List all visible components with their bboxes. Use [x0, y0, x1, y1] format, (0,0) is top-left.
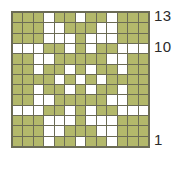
- grid-cell: [139, 54, 148, 63]
- grid-cell: [23, 65, 32, 74]
- grid-cell: [76, 13, 85, 22]
- grid-cell: [97, 34, 106, 43]
- grid-cell: [97, 137, 106, 146]
- grid-cell: [55, 23, 64, 32]
- grid-cell: [139, 85, 148, 94]
- grid-cell: [86, 85, 95, 94]
- grid-cell: [86, 65, 95, 74]
- grid-cell: [13, 85, 22, 94]
- grid-cell: [97, 44, 106, 53]
- grid-cell: [23, 116, 32, 125]
- grid-cell: [128, 54, 137, 63]
- grid-cell: [86, 95, 95, 104]
- grid-cell: [34, 137, 43, 146]
- grid-cell: [44, 85, 53, 94]
- grid-cell: [23, 106, 32, 115]
- grid-cell: [55, 106, 64, 115]
- grid-cell: [76, 126, 85, 135]
- grid-cell: [34, 65, 43, 74]
- grid-cell: [118, 13, 127, 22]
- grid-cell: [107, 23, 116, 32]
- grid-cell: [139, 23, 148, 32]
- grid-cell: [139, 65, 148, 74]
- grid-cell: [76, 75, 85, 84]
- grid-cell: [107, 13, 116, 22]
- grid-cell: [86, 34, 95, 43]
- grid-cell: [107, 106, 116, 115]
- grid-cell: [76, 65, 85, 74]
- grid-cell: [128, 23, 137, 32]
- grid-cell: [86, 13, 95, 22]
- grid-cell: [13, 65, 22, 74]
- grid-cell: [139, 126, 148, 135]
- grid-cell: [65, 34, 74, 43]
- grid-cell: [23, 75, 32, 84]
- grid-cell: [23, 23, 32, 32]
- grid-cell: [86, 106, 95, 115]
- grid-cell: [44, 95, 53, 104]
- grid-cell: [65, 85, 74, 94]
- grid-cell: [97, 95, 106, 104]
- grid-cell: [55, 65, 64, 74]
- grid-cell: [13, 23, 22, 32]
- grid-cell: [34, 75, 43, 84]
- grid-cell: [23, 126, 32, 135]
- grid-cell: [97, 23, 106, 32]
- grid-cell: [86, 116, 95, 125]
- grid-cell: [34, 106, 43, 115]
- grid-cell: [23, 137, 32, 146]
- grid-cell: [118, 44, 127, 53]
- grid-cell: [23, 34, 32, 43]
- grid-cell: [128, 95, 137, 104]
- grid-cell: [86, 23, 95, 32]
- grid-cell: [118, 65, 127, 74]
- grid-cell: [86, 54, 95, 63]
- grid-cell: [76, 85, 85, 94]
- grid-cell: [34, 13, 43, 22]
- grid-cell: [97, 65, 106, 74]
- grid-cell: [86, 75, 95, 84]
- grid-cell: [128, 13, 137, 22]
- grid-cell: [55, 95, 64, 104]
- row-label-13: 13: [154, 8, 171, 23]
- grid-cell: [13, 34, 22, 43]
- grid-cell: [128, 116, 137, 125]
- grid-cell: [86, 44, 95, 53]
- grid-cell: [65, 65, 74, 74]
- grid-cell: [13, 54, 22, 63]
- grid-cell: [128, 106, 137, 115]
- grid-cell: [118, 34, 127, 43]
- grid-cell: [107, 85, 116, 94]
- grid-cell: [13, 126, 22, 135]
- grid-cell: [44, 126, 53, 135]
- grid-cell: [34, 126, 43, 135]
- grid-cell: [55, 116, 64, 125]
- grid-cell: [76, 23, 85, 32]
- grid-cell: [13, 106, 22, 115]
- grid-cell: [65, 106, 74, 115]
- grid-cell: [23, 54, 32, 63]
- grid-cell: [55, 13, 64, 22]
- grid-cell: [44, 23, 53, 32]
- grid-cell: [65, 13, 74, 22]
- stitch-chart-widget: 13 10 1: [0, 0, 177, 169]
- grid-cell: [34, 34, 43, 43]
- grid-cell: [118, 106, 127, 115]
- grid-cell: [118, 85, 127, 94]
- grid-cell: [128, 85, 137, 94]
- grid-cell: [65, 75, 74, 84]
- grid-cell: [128, 137, 137, 146]
- grid-cell: [55, 85, 64, 94]
- grid-cell: [44, 44, 53, 53]
- grid-cell: [55, 75, 64, 84]
- grid-cell: [128, 34, 137, 43]
- grid-cell: [55, 126, 64, 135]
- grid-cell: [34, 95, 43, 104]
- grid-cell: [65, 23, 74, 32]
- grid-cell: [97, 116, 106, 125]
- grid-cell: [65, 126, 74, 135]
- grid-cell: [44, 116, 53, 125]
- grid-cell: [97, 85, 106, 94]
- grid-cell: [107, 126, 116, 135]
- grid-cell: [139, 137, 148, 146]
